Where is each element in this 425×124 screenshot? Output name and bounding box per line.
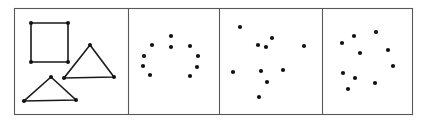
scatter-dot-2	[270, 36, 274, 40]
scatter-dot-9	[148, 73, 152, 77]
scatter-dot-5	[302, 44, 306, 48]
lower-triangle-vertex-2	[74, 98, 78, 102]
scatter-dot-10	[257, 95, 261, 99]
right-triangle-vertex-2	[112, 75, 116, 79]
lower-triangle-vertex-1	[49, 75, 53, 79]
scatter-dot-9	[265, 80, 269, 84]
square-vertex-2	[66, 21, 70, 25]
scatter-dot-4	[188, 44, 192, 48]
scatter-dot-3	[169, 45, 173, 49]
scatter-dot-3	[256, 43, 260, 47]
scatter-dot-10	[346, 87, 350, 91]
scatter-dot-2	[150, 43, 154, 47]
scatter-dot-5	[358, 51, 362, 55]
lower-triangle-vertex-3	[22, 99, 26, 103]
scatter-dot-10	[188, 74, 192, 78]
square-vertex-3	[66, 60, 70, 64]
scatter-dot-8	[353, 76, 357, 80]
scatter-dot-6	[391, 64, 395, 68]
figure-container	[0, 0, 425, 124]
scatter-dot-6	[196, 54, 200, 58]
scatter-dot-7	[141, 64, 145, 68]
scatter-dot-1	[374, 30, 378, 34]
square-vertex-1	[29, 21, 33, 25]
scatter-dot-5	[142, 54, 146, 58]
square-vertex-4	[29, 60, 33, 64]
scatter-dot-3	[340, 41, 344, 45]
scatter-dot-1	[238, 25, 242, 29]
scatter-dot-8	[195, 65, 199, 69]
scatter-dot-8	[281, 68, 285, 72]
scatter-dot-1	[169, 34, 173, 38]
figure-canvas	[0, 0, 425, 124]
scatter-dot-2	[352, 34, 356, 38]
scatter-dot-6	[231, 70, 235, 74]
right-triangle-vertex-1	[88, 43, 92, 47]
right-triangle-vertex-3	[62, 76, 66, 80]
scatter-dot-4	[386, 48, 390, 52]
scatter-dot-7	[259, 69, 263, 73]
scatter-dot-7	[341, 71, 345, 75]
scatter-dot-9	[373, 81, 377, 85]
scatter-dot-4	[264, 45, 268, 49]
